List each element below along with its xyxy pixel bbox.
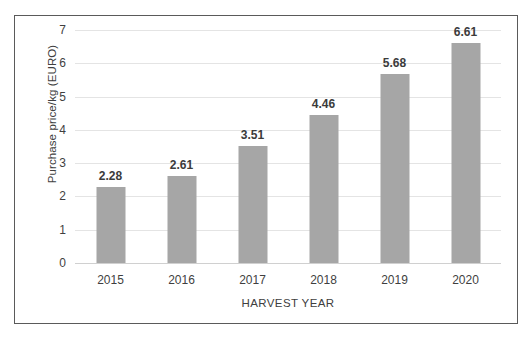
bar-value-label-2018: 4.46 [312,98,335,110]
x-tick-label-2017: 2017 [239,273,266,287]
plot-area: 7 6 5 4 3 2 1 0 2.28 2015 [75,30,501,263]
bar-slot-2016: 2.61 2016 [146,30,217,263]
bar-value-label-2015: 2.28 [99,170,122,182]
y-tick-label-2: 2 [59,190,66,202]
y-axis-title: Purchase price/kg (EURO) [46,0,58,229]
y-tick-label-1: 1 [59,224,66,236]
y-tick-label-6: 6 [59,57,66,69]
x-tick-label-2019: 2019 [381,273,408,287]
bar-slot-2017: 3.51 2017 [217,30,288,263]
bar-value-label-2020: 6.61 [454,26,477,38]
x-tick-label-2020: 2020 [452,273,479,287]
bar-series: 2.28 2015 2.61 2016 3.51 2017 4.46 2018 … [75,30,501,263]
y-tick-label-5: 5 [59,91,66,103]
y-tick-label-3: 3 [59,157,66,169]
bar-slot-2019: 5.68 2019 [359,30,430,263]
y-tick-label-7: 7 [59,24,66,36]
bar-2016[interactable] [167,176,196,263]
bar-2020[interactable] [451,43,480,263]
bar-value-label-2019: 5.68 [383,57,406,69]
bar-2017[interactable] [238,146,267,263]
bar-2019[interactable] [380,74,409,263]
bar-value-label-2017: 3.51 [241,129,264,141]
bar-slot-2018: 4.46 2018 [288,30,359,263]
y-tick-label-0: 0 [59,257,66,269]
bar-value-label-2016: 2.61 [170,159,193,171]
bar-slot-2015: 2.28 2015 [75,30,146,263]
bar-2015[interactable] [96,187,125,263]
x-axis-title: HARVEST YEAR [75,297,501,309]
bar-2018[interactable] [309,115,338,263]
x-tick-label-2015: 2015 [97,273,124,287]
x-tick-label-2016: 2016 [168,273,195,287]
bar-slot-2020: 6.61 2020 [430,30,501,263]
gridline-0: 0 [75,263,501,264]
y-tick-label-4: 4 [59,124,66,136]
x-tick-label-2018: 2018 [310,273,337,287]
chart-frame: Purchase price/kg (EURO) 7 6 5 4 3 2 1 0 [14,15,518,324]
